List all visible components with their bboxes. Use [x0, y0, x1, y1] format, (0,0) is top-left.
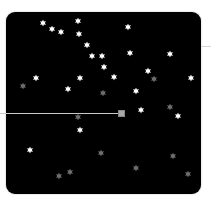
dim-star-icon[interactable]	[151, 76, 158, 83]
dim-star-icon[interactable]	[170, 153, 177, 160]
dim-star-icon[interactable]	[98, 150, 105, 157]
slider-handle[interactable]	[118, 110, 125, 117]
dim-star-icon[interactable]	[75, 114, 82, 121]
dim-star-icon[interactable]	[167, 104, 174, 111]
bright-star-icon[interactable]	[58, 29, 65, 36]
bright-star-icon[interactable]	[175, 113, 182, 120]
bright-star-icon[interactable]	[133, 88, 140, 95]
bright-star-icon[interactable]	[76, 31, 83, 38]
bright-star-icon[interactable]	[99, 53, 106, 60]
bright-star-icon[interactable]	[127, 50, 134, 57]
bright-star-icon[interactable]	[33, 75, 40, 82]
guide-line-right	[201, 46, 211, 47]
dim-star-icon[interactable]	[67, 169, 74, 176]
dim-star-icon[interactable]	[185, 171, 192, 178]
dim-star-icon[interactable]	[133, 165, 140, 172]
dim-star-icon[interactable]	[20, 83, 27, 90]
bright-star-icon[interactable]	[111, 74, 118, 81]
bright-star-icon[interactable]	[138, 107, 145, 114]
bright-star-icon[interactable]	[77, 75, 84, 82]
bright-star-icon[interactable]	[125, 24, 132, 31]
bright-star-icon[interactable]	[27, 147, 34, 154]
bright-star-icon[interactable]	[145, 68, 152, 75]
bright-star-icon[interactable]	[75, 18, 82, 25]
dim-star-icon[interactable]	[56, 173, 63, 180]
bright-star-icon[interactable]	[167, 51, 174, 58]
bright-star-icon[interactable]	[188, 75, 195, 82]
bright-star-icon[interactable]	[65, 86, 72, 93]
bright-star-icon[interactable]	[101, 64, 108, 71]
slider-track-line	[0, 113, 118, 114]
bright-star-icon[interactable]	[84, 42, 91, 49]
dim-star-icon[interactable]	[100, 90, 107, 97]
bright-star-icon[interactable]	[49, 26, 56, 33]
bright-star-icon[interactable]	[40, 20, 47, 27]
bright-star-icon[interactable]	[77, 127, 84, 134]
bright-star-icon[interactable]	[89, 53, 96, 60]
